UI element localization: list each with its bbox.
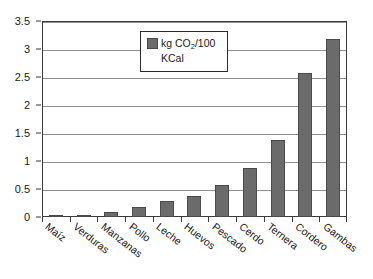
bar[interactable]	[160, 201, 174, 217]
bar-chart: 00.511.522.533.5 MaízVerdurasManzanasPol…	[0, 0, 373, 279]
y-tick-mark	[36, 21, 41, 22]
bar-slot	[264, 21, 292, 217]
bar[interactable]	[298, 73, 312, 217]
y-tick-label: 1.5	[15, 128, 30, 139]
y-tick-label: 2.5	[15, 72, 30, 83]
legend-label-prefix: kg CO	[161, 37, 191, 49]
bar[interactable]	[326, 39, 340, 217]
legend-label-subscript: 2	[191, 42, 195, 51]
bar-slot	[319, 21, 347, 217]
y-tick-mark	[36, 217, 41, 218]
bar-slot	[42, 21, 70, 217]
x-tick-label: Gambas	[321, 221, 359, 254]
legend-label-line2: KCal	[161, 52, 223, 65]
y-tick-label: 3	[24, 44, 30, 55]
y-tick-mark	[36, 161, 41, 162]
bar-slot	[292, 21, 320, 217]
bar[interactable]	[243, 168, 257, 217]
legend-item: kg CO2/100	[147, 37, 223, 52]
x-tick-label: Maíz	[44, 221, 69, 244]
y-tick-label: 2	[24, 100, 30, 111]
y-axis: 00.511.522.533.5	[0, 21, 36, 217]
y-tick-label: 0.5	[15, 184, 30, 195]
y-tick-label: 3.5	[15, 16, 30, 27]
x-axis-labels: MaízVerdurasManzanasPolloLecheHuevosPesc…	[0, 221, 373, 279]
legend: kg CO2/100 KCal	[140, 31, 228, 72]
legend-label-suffix: /100	[195, 37, 215, 49]
bar[interactable]	[271, 140, 285, 217]
y-tick-mark	[36, 49, 41, 50]
y-tick-mark	[36, 77, 41, 78]
bar[interactable]	[132, 207, 146, 217]
y-tick-mark	[36, 133, 41, 134]
legend-label-line1: kg CO2/100	[161, 37, 215, 52]
y-tick-label: 1	[24, 156, 30, 167]
bar[interactable]	[215, 185, 229, 217]
x-tick-label: Leche	[154, 221, 183, 247]
bar[interactable]	[187, 196, 201, 217]
y-tick-mark	[36, 189, 41, 190]
legend-swatch-icon	[147, 38, 158, 49]
bar-slot	[97, 21, 125, 217]
y-tick-mark	[36, 105, 41, 106]
bar-slot	[70, 21, 98, 217]
bar-slot	[236, 21, 264, 217]
